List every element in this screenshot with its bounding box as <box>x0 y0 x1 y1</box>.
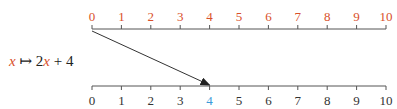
top-tick-label: 0 <box>89 9 96 24</box>
top-tick-label: 1 <box>118 9 125 24</box>
top-tick-label: 9 <box>353 9 360 24</box>
function-rest: + 4 <box>50 53 73 69</box>
mapping-arrow <box>92 31 210 85</box>
bottom-tick-label: 7 <box>295 93 302 108</box>
bottom-tick-label: 8 <box>324 93 331 108</box>
function-label: x ↦ 2x + 4 <box>9 52 73 70</box>
bottom-tick-label: 6 <box>265 93 272 108</box>
top-tick-label: 7 <box>295 9 302 24</box>
top-tick-label: 2 <box>148 9 155 24</box>
function-var: x <box>9 53 16 69</box>
bottom-tick-label: 3 <box>177 93 184 108</box>
top-tick-label: 8 <box>324 9 331 24</box>
top-tick-label: 5 <box>236 9 243 24</box>
top-tick-label: 4 <box>206 9 213 24</box>
bottom-tick-label: 10 <box>380 93 393 108</box>
bottom-tick-label: 1 <box>118 93 125 108</box>
bottom-tick-label: 0 <box>89 93 96 108</box>
top-tick-label: 6 <box>265 9 272 24</box>
top-tick-label: 10 <box>380 9 393 24</box>
bottom-tick-label: 9 <box>353 93 360 108</box>
function-var-2: x <box>43 53 50 69</box>
bottom-tick-label: 4 <box>206 93 213 108</box>
function-maps-to: ↦ 2 <box>16 53 44 69</box>
top-tick-label: 3 <box>177 9 184 24</box>
bottom-tick-label: 5 <box>236 93 243 108</box>
bottom-tick-label: 2 <box>148 93 155 108</box>
